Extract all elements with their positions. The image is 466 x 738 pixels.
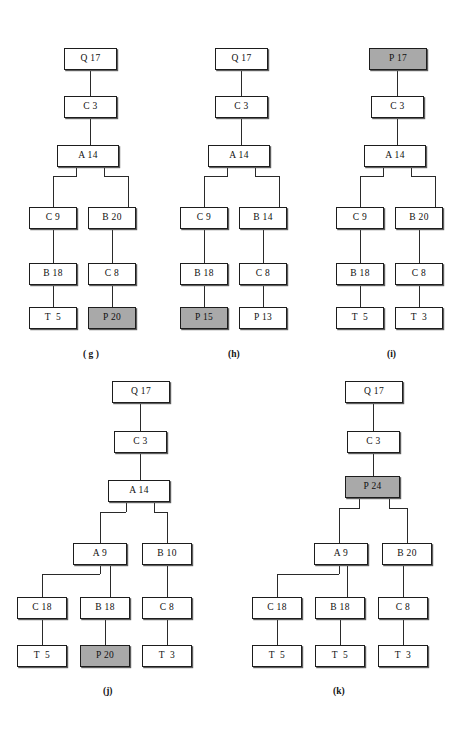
node-c8-i: C 8: [395, 263, 443, 285]
caption-k: (k): [333, 686, 345, 696]
node-p17-i: P 17: [369, 48, 427, 70]
node-c18-j: C 18: [17, 597, 67, 619]
edge-h-5: [255, 176, 279, 177]
node-t5-mid-k: T 5: [315, 645, 365, 667]
edge-i-6: [360, 176, 361, 207]
node-label: C 3: [234, 102, 248, 112]
edge-k-3: [389, 498, 390, 508]
edge-i-11: [419, 285, 420, 307]
edge-h-4: [204, 176, 228, 177]
node-label: T 5: [269, 651, 285, 661]
node-t3-j: T 3: [142, 645, 192, 667]
node-p20-j: P 20: [80, 645, 130, 667]
node-label: T 5: [45, 313, 61, 323]
edge-j-12: [167, 565, 168, 597]
node-label: B 20: [409, 213, 428, 223]
node-c3-i: C 3: [371, 96, 424, 118]
node-a14-g: A 14: [57, 145, 119, 167]
node-a9-j: A 9: [73, 543, 127, 565]
node-label: C 18: [267, 603, 286, 613]
node-c9-h: C 9: [180, 207, 228, 229]
node-label: C 3: [366, 437, 380, 447]
edge-j-10: [42, 574, 100, 575]
node-label: T 3: [411, 313, 427, 323]
edge-h-9: [263, 229, 264, 263]
node-label: A 14: [385, 151, 404, 161]
caption-g: ( g ): [83, 349, 99, 359]
edge-j-9: [110, 565, 111, 597]
node-label: A 14: [78, 151, 97, 161]
edge-k-0: [373, 403, 374, 431]
edge-k-2: [359, 498, 360, 508]
edge-k-6: [339, 508, 340, 543]
node-label: P 13: [254, 313, 272, 323]
edge-g-3: [104, 167, 105, 176]
edge-k-13: [277, 619, 278, 645]
edge-h-7: [279, 176, 280, 207]
node-b14-h: B 14: [239, 207, 287, 229]
node-p20-g: P 20: [88, 307, 136, 329]
node-c3-k: C 3: [347, 431, 400, 453]
edge-g-4: [53, 176, 77, 177]
node-label: B 20: [397, 549, 416, 559]
node-label: P 15: [195, 313, 213, 323]
node-b18-g: B 18: [29, 263, 77, 285]
edge-j-5: [154, 512, 167, 513]
edge-k-8: [339, 565, 340, 574]
node-p15-h: P 15: [180, 307, 228, 329]
node-c9-i: C 9: [336, 207, 384, 229]
node-label: T 3: [395, 651, 411, 661]
edge-k-4: [339, 508, 360, 509]
node-label: B 18: [350, 269, 369, 279]
node-b18-k: B 18: [315, 597, 365, 619]
node-b18-j: B 18: [80, 597, 130, 619]
node-label: C 8: [105, 269, 119, 279]
node-label: T 5: [352, 313, 368, 323]
edge-g-1: [90, 118, 91, 145]
node-label: A 9: [93, 549, 107, 559]
node-label: C 3: [83, 102, 97, 112]
edge-g-0: [90, 70, 91, 96]
edge-g-5: [104, 176, 128, 177]
edge-k-14: [340, 619, 341, 645]
node-label: B 18: [330, 603, 349, 613]
node-c18-k: C 18: [252, 597, 302, 619]
edge-h-2: [227, 167, 228, 176]
node-c8-h: C 8: [239, 263, 287, 285]
node-label: P 24: [363, 482, 381, 492]
node-label: C 3: [390, 102, 404, 112]
node-label: C 8: [396, 603, 410, 613]
edge-g-11: [112, 285, 113, 307]
node-label: T 3: [159, 651, 175, 661]
edge-k-1: [373, 453, 374, 476]
node-p13-h: P 13: [239, 307, 287, 329]
node-label: Q 17: [364, 387, 384, 397]
edge-j-11: [42, 574, 43, 597]
node-label: A 14: [129, 486, 148, 496]
node-label: C 3: [133, 437, 147, 447]
node-label: A 14: [229, 151, 248, 161]
node-label: B 10: [157, 549, 176, 559]
node-label: T 5: [332, 651, 348, 661]
edge-k-11: [277, 574, 278, 597]
edge-i-10: [360, 285, 361, 307]
edge-k-10: [277, 574, 339, 575]
edge-h-8: [204, 229, 205, 263]
node-p24-k: P 24: [345, 476, 400, 498]
edge-j-15: [167, 619, 168, 645]
node-c9-g: C 9: [29, 207, 77, 229]
node-a14-j: A 14: [108, 480, 170, 502]
edge-h-10: [204, 285, 205, 307]
edge-g-8: [53, 229, 54, 263]
node-t5-i: T 5: [336, 307, 384, 329]
edge-j-8: [100, 565, 101, 574]
node-label: B 18: [194, 269, 213, 279]
node-q17-g: Q 17: [64, 48, 117, 70]
edge-j-0: [140, 403, 141, 431]
edge-j-14: [105, 619, 106, 645]
edge-j-6: [100, 512, 101, 543]
edge-g-6: [53, 176, 54, 207]
edge-k-5: [389, 508, 407, 509]
node-label: C 18: [32, 603, 51, 613]
node-label: A 9: [334, 549, 348, 559]
